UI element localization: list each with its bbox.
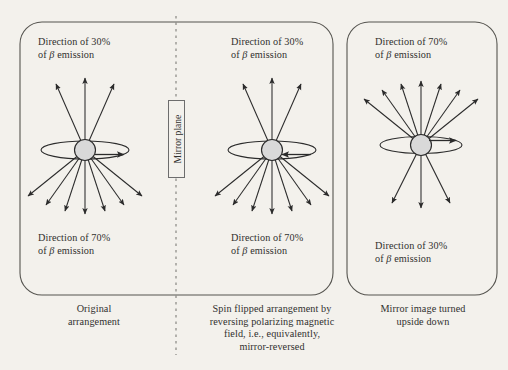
mirror-plane-label: Mirror plane	[171, 115, 182, 164]
panel-original-bottom-label: Direction of 70%of β emission	[38, 232, 110, 257]
panel-spin-flipped-bottom-label: Direction of 70%of β emission	[231, 232, 303, 257]
panel-mirror-top-label: Direction of 70%of β emission	[375, 36, 447, 61]
panel-spin-flipped-nucleus	[228, 140, 316, 161]
panel-spin-flipped-top-label: Direction of 30%of β emission	[231, 36, 303, 61]
panel-mirror-upside-down-nucleus	[380, 135, 462, 156]
figure-canvas: Direction of 30%of β emission Direction …	[0, 0, 508, 370]
panel-mirror-bottom-label: Direction of 30%of β emission	[375, 240, 447, 265]
panel-mirror-caption: Mirror image turnedupside down	[348, 303, 498, 328]
mirror-plane-label-box: Mirror plane	[168, 100, 185, 178]
panel-original-caption: Originalarrangement	[20, 303, 168, 328]
panel-original-top-label: Direction of 30%of β emission	[38, 36, 110, 61]
panel-spin-flipped-caption: Spin flipped arrangement byreversing pol…	[186, 303, 358, 353]
panel-original-nucleus	[41, 140, 129, 161]
